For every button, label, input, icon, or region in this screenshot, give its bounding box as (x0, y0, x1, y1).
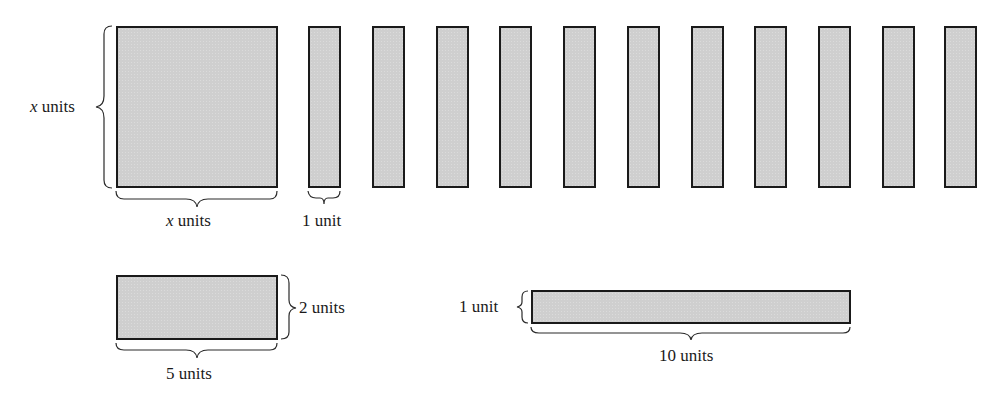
variable-x: x (166, 211, 174, 230)
x-square-width-label: x units (166, 212, 211, 229)
bar-width-label: 10 units (659, 347, 713, 364)
bar-height-label: 1 unit (459, 298, 498, 315)
variable-x: x (30, 97, 38, 116)
rect-width-label: 5 units (166, 365, 212, 382)
brace-icon (517, 291, 528, 323)
braces-layer (0, 0, 1006, 408)
brace-icon (116, 343, 277, 358)
brace-icon (308, 191, 340, 204)
strip-width-label: 1 unit (302, 212, 341, 229)
brace-icon (116, 191, 277, 207)
rect-height-label: 2 units (299, 299, 345, 316)
brace-icon (96, 26, 112, 188)
brace-icon (531, 327, 850, 340)
brace-icon (281, 275, 296, 339)
x-square-height-label: x units (30, 98, 75, 115)
